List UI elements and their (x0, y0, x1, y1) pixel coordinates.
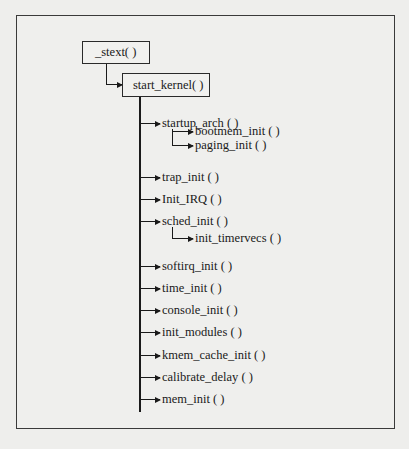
node-stext-box: _stext( ) (82, 41, 150, 64)
arrow-init-timervecs (172, 238, 193, 239)
node-trap-init: trap_init ( ) (162, 170, 219, 184)
arrow-startup-arch (140, 123, 160, 124)
node-init-modules: init_modules ( ) (162, 325, 242, 339)
node-console-init: console_init ( ) (162, 303, 238, 317)
arrow-console-init (140, 310, 160, 311)
arrow-sched-init (140, 221, 160, 222)
node-init-irq: Init_IRQ ( ) (162, 192, 222, 206)
node-mem-init: mem_init ( ) (162, 392, 225, 406)
node-paging-init: paging_init ( ) (195, 138, 267, 152)
node-kmem-cache-init: kmem_cache_init ( ) (162, 348, 265, 362)
node-softirq-init: softirq_init ( ) (162, 259, 232, 273)
arrow-time-init (140, 288, 160, 289)
main-trunk-line (139, 97, 141, 412)
sched-init-sub-vertical (172, 227, 173, 239)
node-calibrate-delay: calibrate_delay ( ) (162, 370, 253, 384)
node-start-kernel-box: start_kernel( ) (122, 73, 210, 97)
arrow-kmem-cache-init (140, 355, 160, 356)
node-start-kernel-label: start_kernel( ) (133, 78, 203, 93)
arrow-init-irq (140, 199, 160, 200)
arrow-trap-init (140, 177, 160, 178)
arrow-calibrate-delay (140, 377, 160, 378)
arrow-to-start-kernel (106, 84, 122, 85)
connector-stext-vertical (106, 64, 107, 85)
node-bootmem-init: bootmem_init ( ) (195, 124, 280, 138)
node-init-timervecs: init_timervecs ( ) (195, 231, 281, 245)
node-stext-label: _stext( ) (95, 45, 136, 60)
arrow-paging-init (172, 145, 193, 146)
node-sched-init: sched_init ( ) (162, 214, 228, 228)
arrow-mem-init (140, 399, 160, 400)
arrow-bootmem-init (172, 131, 193, 132)
arrow-init-modules (140, 332, 160, 333)
arrow-softirq-init (140, 266, 160, 267)
node-time-init: time_init ( ) (162, 281, 222, 295)
